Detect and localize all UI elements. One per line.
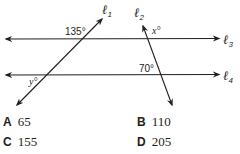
choice-value: 110 bbox=[152, 114, 171, 130]
choice-letter: B bbox=[137, 115, 146, 129]
label-l4: ℓ4 bbox=[223, 68, 233, 85]
choice-value: 155 bbox=[18, 134, 38, 150]
choice-letter: D bbox=[137, 135, 146, 149]
angle-x-label: x° bbox=[151, 25, 160, 36]
angle-70-label: 70° bbox=[139, 63, 154, 74]
choice-d[interactable]: D 205 bbox=[137, 134, 171, 152]
label-l1: ℓ1 bbox=[102, 2, 112, 19]
choice-b[interactable]: B 110 bbox=[137, 114, 171, 132]
line-l1 bbox=[17, 19, 102, 105]
line-l4 bbox=[6, 75, 219, 76]
line-l3 bbox=[6, 39, 219, 40]
label-l3: ℓ3 bbox=[223, 32, 233, 49]
choice-value: 205 bbox=[152, 134, 172, 150]
parallel-lines-diagram: ℓ1 ℓ2 ℓ3 ℓ4 135° 70° x° y° bbox=[0, 0, 240, 110]
choice-letter: A bbox=[3, 115, 12, 129]
answer-choices: A 65 B 110 C 155 D 205 bbox=[0, 112, 240, 154]
angle-135-label: 135° bbox=[65, 26, 86, 37]
choice-a[interactable]: A 65 bbox=[3, 114, 31, 132]
choice-c[interactable]: C 155 bbox=[3, 134, 37, 152]
choice-letter: C bbox=[3, 135, 12, 149]
choice-value: 65 bbox=[18, 114, 31, 130]
label-l2: ℓ2 bbox=[134, 5, 144, 22]
angle-y-label: y° bbox=[28, 76, 37, 87]
